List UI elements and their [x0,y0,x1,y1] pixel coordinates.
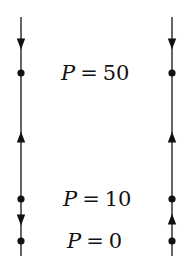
label-variable: P [61,61,75,85]
arrow-down-icon [168,39,176,50]
label-equals: = [77,187,105,211]
equilibrium-dot-icon [168,237,175,244]
arrow-down-icon [17,39,25,50]
phase-line-right [168,17,176,256]
label-value: 0 [109,229,122,253]
label-value: 50 [103,61,130,85]
equilibrium-dot-icon [168,69,175,76]
equilibrium-dot-icon [17,69,24,76]
label-variable: P [63,187,77,211]
equilibrium-label-50: P=50 [61,63,129,84]
equilibrium-label-10: P=10 [63,189,131,210]
label-variable: P [67,229,81,253]
arrow-up-icon [17,132,25,143]
equilibrium-dot-icon [168,195,175,202]
arrow-up-icon [168,214,176,225]
equilibrium-dot-icon [17,195,24,202]
phase-line-left [17,17,25,256]
label-value: 10 [105,187,132,211]
equilibrium-label-0: P=0 [67,231,122,252]
arrow-down-icon [17,215,25,226]
arrow-up-icon [168,132,176,143]
label-equals: = [81,229,109,253]
equilibrium-dot-icon [17,237,24,244]
label-equals: = [75,61,103,85]
phase-line-diagram: P=50 P=10 P=0 [0,0,190,274]
